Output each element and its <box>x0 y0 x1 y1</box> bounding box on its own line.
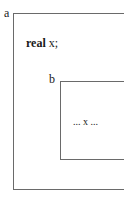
type-keyword: real <box>26 36 46 50</box>
inner-block-label: b <box>49 73 55 85</box>
variable-declaration: real x; <box>26 36 58 50</box>
outer-block-label: a <box>4 7 9 19</box>
inner-block-bottom-border <box>60 159 124 160</box>
variable-usage: ... x ... <box>73 116 98 128</box>
declared-identifier: x; <box>49 36 58 50</box>
outer-block-top-border <box>13 13 124 14</box>
outer-block-left-border <box>13 13 14 189</box>
inner-block-top-border <box>60 81 124 82</box>
outer-block-bottom-border <box>13 189 124 190</box>
inner-block-left-border <box>60 81 61 159</box>
